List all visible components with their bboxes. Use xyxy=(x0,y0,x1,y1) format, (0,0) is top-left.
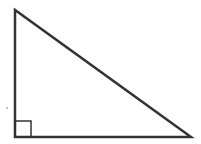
right-triangle xyxy=(15,10,191,137)
right-angle-marker xyxy=(15,121,31,137)
stray-dot xyxy=(6,107,8,109)
triangle-diagram xyxy=(0,0,201,144)
